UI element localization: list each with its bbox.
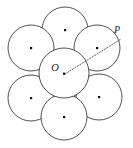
label-point-p: P	[113, 24, 120, 35]
center-dot-lower-right-circle	[98, 96, 100, 98]
center-dot-lower-left-circle	[30, 97, 32, 99]
geometry-figure: O P	[0, 0, 133, 148]
circle-packing-diagram: O P	[0, 0, 133, 148]
center-dot-top-circle	[64, 29, 66, 31]
label-point-o: O	[51, 62, 59, 73]
center-dot-upper-left-circle	[30, 47, 32, 49]
center-dot-center-circle	[63, 73, 65, 75]
center-dot-upper-right-circle	[96, 47, 98, 49]
center-dot-bottom-circle	[63, 116, 65, 118]
